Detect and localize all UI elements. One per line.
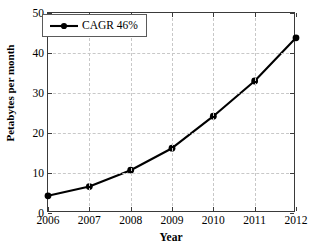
y-axis-tick-mark xyxy=(290,173,294,174)
x-axis-tick-label: 2008 xyxy=(108,214,154,226)
gridline-vertical xyxy=(213,13,214,211)
x-axis-tick-label: 2006 xyxy=(25,214,71,226)
gridline-vertical xyxy=(255,13,256,211)
gridline-horizontal xyxy=(48,173,294,174)
gridline-vertical xyxy=(89,13,90,211)
chart-legend: CAGR 46% xyxy=(42,14,147,37)
y-axis-tick-mark xyxy=(290,133,294,134)
x-axis-tick-mark xyxy=(213,207,214,211)
x-axis-tick-label: 2012 xyxy=(273,214,314,226)
x-axis-tick-label: 2009 xyxy=(149,214,195,226)
data-point-marker xyxy=(293,34,300,41)
x-axis-tick-mark xyxy=(213,13,214,17)
y-axis-tick-mark xyxy=(290,93,294,94)
x-axis-tick-mark xyxy=(89,207,90,211)
x-axis-tick-label: 2010 xyxy=(190,214,236,226)
y-axis-tick-label: 10 xyxy=(4,168,44,179)
data-point-marker xyxy=(45,192,52,199)
x-axis-tick-mark xyxy=(131,207,132,211)
legend-entry-label: CAGR 46% xyxy=(82,19,138,32)
x-axis-tick-mark xyxy=(48,207,49,211)
y-axis-tick-label: 40 xyxy=(4,48,44,59)
gridline-horizontal xyxy=(48,93,294,94)
x-axis-tick-mark xyxy=(296,207,297,211)
y-axis-tick-mark xyxy=(290,13,294,14)
x-axis-tick-mark xyxy=(255,13,256,17)
gridline-vertical xyxy=(172,13,173,211)
plot-area: 010203040502006200720082009201020112012 xyxy=(47,12,295,212)
x-axis-tick-label: 2011 xyxy=(232,214,278,226)
gridline-vertical xyxy=(131,13,132,211)
y-axis-tick-label: 30 xyxy=(4,88,44,99)
chart-figure: Petabytes per month 01020304050200620072… xyxy=(0,0,314,249)
gridline-horizontal xyxy=(48,53,294,54)
y-axis-tick-mark xyxy=(290,53,294,54)
x-axis-tick-mark xyxy=(296,13,297,17)
x-axis-label: Year xyxy=(47,230,295,244)
legend-line-marker-icon xyxy=(49,20,79,32)
gridline-horizontal xyxy=(48,133,294,134)
y-axis-tick-mark xyxy=(48,93,52,94)
x-axis-tick-mark xyxy=(172,207,173,211)
y-axis-tick-mark xyxy=(48,53,52,54)
x-axis-tick-label: 2007 xyxy=(66,214,112,226)
x-axis-tick-mark xyxy=(255,207,256,211)
y-axis-tick-mark xyxy=(48,173,52,174)
y-axis-tick-mark xyxy=(48,133,52,134)
y-axis-tick-label: 20 xyxy=(4,128,44,139)
x-axis-tick-mark xyxy=(172,13,173,17)
y-axis-tick-label: 50 xyxy=(4,8,44,19)
